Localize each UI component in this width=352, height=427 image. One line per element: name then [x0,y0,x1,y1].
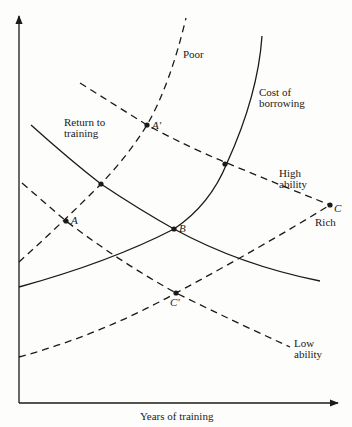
point-A-marker [63,218,68,223]
poor-curve [19,18,186,262]
high-ability-label-line2: ability [279,178,308,190]
point-A-prime-marker [144,122,149,127]
point-cost-high-marker [222,161,227,166]
point-C-label: C [334,202,342,214]
point-intersection-marker [98,181,103,186]
point-C-prime-label: C' [170,296,180,308]
poor-label: Poor [183,48,204,60]
point-B-marker [171,226,176,231]
point-C-marker [327,202,332,207]
point-A-label: A [70,214,78,226]
point-A-prime-label: A' [151,119,162,131]
training-diagram: A A' B C C' Poor Cost of borrowing Rich … [0,0,352,427]
return-to-training-curve [31,125,320,281]
x-axis-label: Years of training [140,410,214,422]
low-ability-curve [22,183,290,347]
rich-label: Rich [315,216,336,228]
return-label-line2: training [64,127,99,139]
cost-label-line2: borrowing [259,97,305,109]
point-B-label: B [179,222,186,234]
point-C-prime-marker [173,290,178,295]
low-ability-label-line2: ability [294,348,323,360]
